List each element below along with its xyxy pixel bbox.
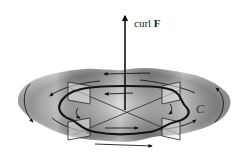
curve-c-label: C	[196, 102, 205, 116]
flow-arrow-bottom-front	[95, 144, 152, 146]
curl-f-label: curl F	[134, 17, 161, 29]
curl-paddle-wheel-diagram: curl F C	[0, 0, 246, 163]
